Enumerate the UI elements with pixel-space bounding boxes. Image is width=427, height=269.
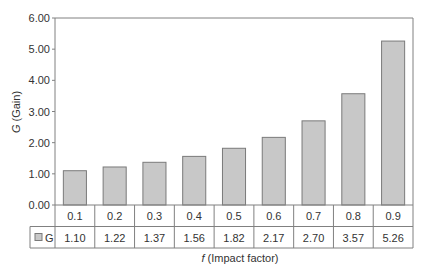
value-label: 5.26 [382,232,403,244]
category-label: 0.6 [266,210,281,222]
category-label: 0.1 [67,210,82,222]
value-label: 1.37 [144,232,165,244]
category-label: 0.4 [187,210,202,222]
bar-0.5 [222,148,245,205]
bar-0.3 [143,162,166,205]
value-label: 2.70 [303,232,324,244]
y-tick-label: 6.00 [29,12,50,24]
value-label: 1.22 [104,232,125,244]
y-axis-ticks: 0.001.002.003.004.005.006.00 [29,12,55,211]
bar-0.1 [63,171,86,205]
bar-0.8 [342,94,365,205]
data-table: 0.11.100.21.220.31.370.41.560.51.820.62.… [30,205,413,248]
y-tick-label: 4.00 [29,74,50,86]
category-label: 0.9 [385,210,400,222]
legend-label: G [45,232,54,244]
y-tick-label: 1.00 [29,168,50,180]
y-tick-label: 2.00 [29,137,50,149]
bar-0.2 [103,167,126,205]
x-axis-title: f (Impact factor) [201,252,278,264]
category-label: 0.2 [107,210,122,222]
bar-0.6 [262,137,285,205]
legend-swatch [35,234,42,241]
bar-series-g [63,41,404,205]
value-label: 3.57 [343,232,364,244]
bar-0.7 [302,121,325,205]
y-tick-label: 5.00 [29,43,50,55]
value-label: 2.17 [263,232,284,244]
y-tick-label: 0.00 [29,199,50,211]
category-label: 0.8 [346,210,361,222]
value-label: 1.56 [184,232,205,244]
category-label: 0.7 [306,210,321,222]
bar-0.9 [382,41,405,205]
y-axis-title: G (Gain) [10,91,22,133]
value-label: 1.10 [64,232,85,244]
category-label: 0.5 [226,210,241,222]
bar-chart: 0.001.002.003.004.005.006.00 0.11.100.21… [0,0,427,269]
category-label: 0.3 [147,210,162,222]
bar-0.4 [183,156,206,205]
y-tick-label: 3.00 [29,106,50,118]
value-label: 1.82 [223,232,244,244]
